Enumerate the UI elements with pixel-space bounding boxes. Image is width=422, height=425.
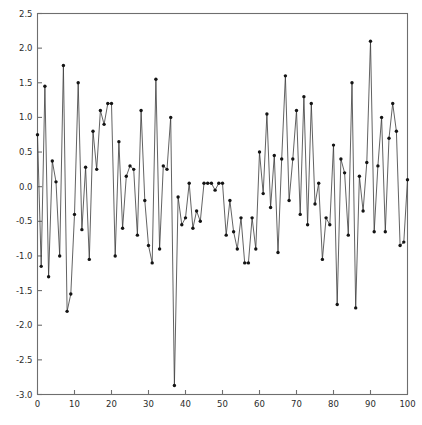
data-point-marker [225,233,228,236]
data-point-marker [313,202,316,205]
data-point-marker [173,384,176,387]
y-tick-label: 2.5 [19,9,33,19]
data-point-marker [387,136,390,139]
data-point-marker [117,140,120,143]
data-point-marker [398,244,401,247]
data-point-marker [199,220,202,223]
data-point-marker [136,233,139,236]
plot-frame [38,14,408,395]
data-point-marker [36,133,39,136]
data-point-marker [210,182,213,185]
data-point-marker [80,228,83,231]
data-point-marker [280,157,283,160]
data-point-marker [121,227,124,230]
data-point-marker [406,178,409,181]
x-tick-label: 20 [106,399,117,409]
data-point-marker [269,206,272,209]
x-tick-label: 70 [291,399,302,409]
data-point-marker [384,230,387,233]
data-point-marker [217,182,220,185]
data-point-marker [291,157,294,160]
data-point-marker [51,159,54,162]
x-tick-label: 80 [328,399,339,409]
chart-container: 0102030405060708090100-3.0-2.5-2.0-1.5-1… [0,0,422,425]
data-point-marker [154,78,157,81]
data-point-marker [284,74,287,77]
x-tick-label: 100 [399,399,415,409]
data-point-marker [265,112,268,115]
data-point-marker [236,247,239,250]
data-point-marker [369,40,372,43]
data-point-marker [158,247,161,250]
data-point-marker [162,164,165,167]
data-point-marker [365,161,368,164]
series-line [38,41,408,385]
y-tick-label: -2.5 [16,355,33,365]
data-point-marker [243,261,246,264]
data-point-marker [91,130,94,133]
x-tick-label: 60 [254,399,265,409]
data-point-marker [191,227,194,230]
data-point-marker [88,258,91,261]
data-point-marker [151,261,154,264]
data-point-marker [276,251,279,254]
data-point-marker [258,150,261,153]
data-point-marker [184,216,187,219]
y-tick-label: -1.0 [16,251,33,261]
data-point-marker [62,64,65,67]
data-point-marker [195,209,198,212]
data-point-marker [106,102,109,105]
data-point-marker [302,95,305,98]
data-point-marker [102,123,105,126]
data-point-marker [332,143,335,146]
data-point-marker [73,213,76,216]
data-point-marker [139,109,142,112]
x-tick-label: 0 [35,399,40,409]
data-point-marker [310,102,313,105]
y-tick-label: 0.5 [19,147,33,157]
x-tick-label: 10 [69,399,80,409]
data-point-marker [232,230,235,233]
y-tick-label: 1.5 [19,78,33,88]
x-tick-label: 40 [180,399,191,409]
data-point-marker [77,81,80,84]
data-point-marker [336,303,339,306]
data-point-marker [317,182,320,185]
data-point-marker [324,216,327,219]
data-point-marker [299,213,302,216]
data-point-marker [361,209,364,212]
x-tick-label: 50 [217,399,228,409]
y-tick-label: 0.0 [19,182,33,192]
data-point-marker [295,109,298,112]
data-point-marker [128,164,131,167]
y-tick-label: 2.0 [19,43,33,53]
data-point-marker [188,182,191,185]
y-tick-label: -0.5 [16,216,33,226]
data-point-marker [132,168,135,171]
data-point-marker [165,168,168,171]
data-point-marker [47,275,50,278]
data-point-marker [239,216,242,219]
x-tick-label: 30 [143,399,154,409]
data-point-marker [354,306,357,309]
data-point-marker [376,164,379,167]
data-point-marker [347,233,350,236]
data-point-marker [65,310,68,313]
data-point-marker [247,261,250,264]
data-point-marker [358,175,361,178]
data-point-marker [69,292,72,295]
data-point-marker [373,230,376,233]
data-point-marker [99,109,102,112]
data-point-marker [402,240,405,243]
data-point-marker [40,265,43,268]
data-point-marker [169,116,172,119]
data-point-marker [180,223,183,226]
data-point-marker [176,195,179,198]
data-point-marker [273,154,276,157]
data-point-marker [254,247,257,250]
data-point-marker [250,216,253,219]
data-point-marker [84,166,87,169]
data-point-marker [350,81,353,84]
data-point-marker [143,199,146,202]
data-point-marker [54,180,57,183]
